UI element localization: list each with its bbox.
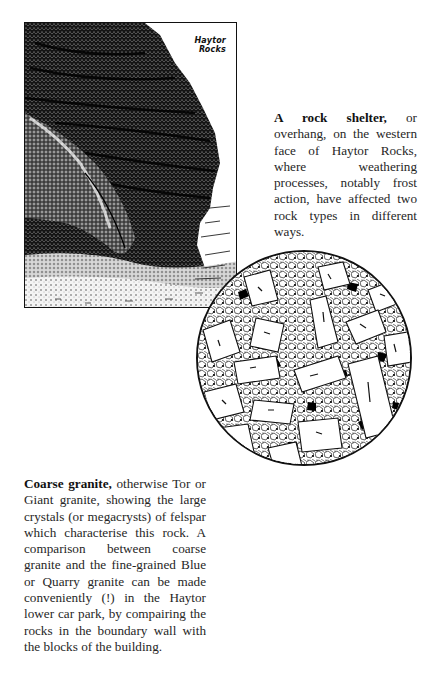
caption-lead: Coarse granite, [24, 476, 112, 491]
granite-texture-drawing [198, 252, 412, 466]
caption-body: otherwise Tor or Giant granite, showing … [24, 476, 206, 654]
coarse-granite-caption: Coarse granite, otherwise Tor or Giant g… [24, 476, 206, 655]
rock-shelter-caption: A rock shelter, or overhang, on the west… [274, 110, 417, 240]
coarse-granite-illustration [196, 250, 412, 466]
caption-lead: A rock shelter, [274, 110, 387, 125]
caption-body: or overhang, on the western face of Hayt… [274, 110, 417, 239]
haytor-rocks-label: Haytor Rocks [194, 36, 226, 54]
label-line-2: Rocks [194, 45, 226, 54]
label-line-1: Haytor [194, 36, 226, 45]
